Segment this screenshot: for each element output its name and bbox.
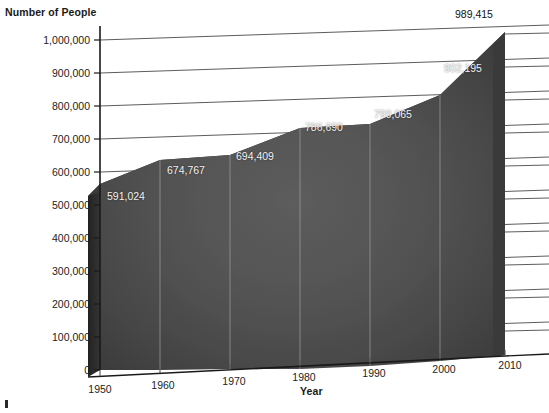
x-tick-label-1980: 1980: [292, 371, 315, 383]
x-tick-label-1970: 1970: [222, 375, 245, 387]
y-tick-label: 100,000: [24, 331, 90, 343]
y-axis-title: Number of People: [5, 6, 96, 18]
y-tick-label: 300,000: [24, 265, 90, 277]
x-axis-title: Year: [300, 385, 323, 397]
x-tick-label-1990: 1990: [362, 367, 385, 379]
y-tick-label: 0: [56, 364, 90, 376]
data-label-1980: 786,690: [305, 121, 343, 133]
y-tick-label: 400,000: [24, 232, 90, 244]
area-side-face: [88, 184, 100, 377]
y-tick-label: 200,000: [24, 298, 90, 310]
y-tick-label: 800,000: [24, 100, 90, 112]
y-tick-label: 900,000: [24, 67, 90, 79]
corner-artifact: [5, 400, 8, 408]
x-tick-label-2000: 2000: [432, 363, 455, 375]
area-chart: Number of People Year 0 100,000 200,000 …: [0, 0, 549, 413]
x-tick-label-1950: 1950: [88, 383, 111, 395]
gridlines-foreground: [505, 33, 549, 331]
data-label-1990: 799,065: [374, 108, 412, 120]
y-tick-label: 500,000: [24, 199, 90, 211]
data-label-2000: 902,195: [444, 62, 482, 74]
y-tick-label: 700,000: [24, 133, 90, 145]
x-tick-label-1960: 1960: [151, 379, 174, 391]
x-tick-label-2010: 2010: [498, 359, 521, 371]
data-label-1970: 694,409: [236, 150, 274, 162]
y-tick-label: 1,000,000: [12, 34, 90, 46]
area-right-face: [493, 32, 505, 357]
data-label-1960: 674,767: [167, 164, 205, 176]
data-label-1950: 591,024: [107, 190, 145, 202]
data-label-2010: 989,415: [455, 8, 493, 20]
area-surface: [100, 32, 505, 370]
y-tick-label: 600,000: [24, 166, 90, 178]
